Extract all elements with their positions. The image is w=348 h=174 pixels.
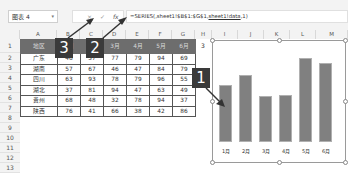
callout-badge-3: 3 <box>55 38 73 58</box>
callout-badge-2: 2 <box>86 38 104 58</box>
callout-badge-1: 1 <box>192 68 210 88</box>
annotation-arrows <box>0 0 348 174</box>
